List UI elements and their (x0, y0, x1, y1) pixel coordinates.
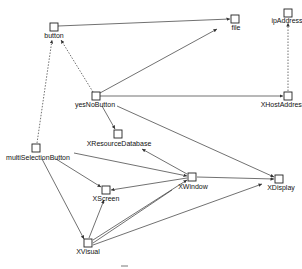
edge-button-to-file (58, 19, 230, 26)
edge-xvisual-to-xscreen (89, 200, 104, 238)
node-label: XResourceDatabase (87, 140, 152, 147)
node-multiselectionbutton[interactable]: multiSelectionButton (6, 144, 70, 161)
node-box[interactable] (114, 130, 122, 138)
node-box[interactable] (102, 186, 110, 194)
edge-yesnobutton-to-file (100, 29, 217, 93)
node-file[interactable]: file (231, 15, 241, 31)
node-label: XDisplay (267, 184, 295, 192)
node-box[interactable] (231, 15, 239, 23)
node-label: file (232, 24, 241, 31)
node-box[interactable] (188, 173, 196, 181)
edge-multiselection-to-xvisual (42, 159, 84, 239)
node-yesnobutton[interactable]: yesNoButton (75, 92, 115, 109)
node-label: yesNoButton (75, 101, 115, 109)
node-box[interactable] (284, 9, 292, 17)
node-box[interactable] (284, 92, 292, 100)
node-ipaddress[interactable]: ipAddress (271, 9, 302, 25)
node-label: XHostAddress (261, 101, 302, 108)
node-xdisplay[interactable]: XDisplay (267, 175, 295, 192)
node-label: ipAddress (271, 17, 302, 25)
node-box[interactable] (275, 175, 283, 183)
node-label: button (44, 32, 64, 39)
node-box[interactable] (32, 144, 40, 152)
edge-xvisual-to-xdisplay (93, 184, 262, 245)
edges (37, 19, 288, 245)
dependency-graph: button file ipAddress yesNoButton XHostA… (0, 0, 302, 269)
node-xhostaddress[interactable]: XHostAddress (261, 92, 302, 108)
node-label: XWindow (178, 183, 209, 190)
node-xresourcedatabase[interactable]: XResourceDatabase (87, 130, 152, 147)
edge-yesnobutton-to-xresourcedatabase (102, 106, 115, 129)
node-xscreen[interactable]: XScreen (93, 186, 120, 202)
node-label: XScreen (93, 195, 120, 202)
node-box[interactable] (84, 239, 92, 247)
edge-multiselection-to-button (37, 40, 52, 143)
node-xvisual[interactable]: XVisual (76, 239, 100, 255)
edge-xwindow-to-xresourcedatabase (142, 149, 187, 174)
edge-yesnobutton-to-button (61, 40, 93, 92)
node-xwindow[interactable]: XWindow (178, 173, 209, 190)
edge-xwindow-to-xscreen (111, 178, 187, 190)
edge-xwindow-to-xdisplay (197, 177, 274, 179)
node-label: XVisual (76, 248, 100, 255)
node-button[interactable]: button (44, 23, 64, 39)
node-box[interactable] (50, 23, 58, 31)
node-label: multiSelectionButton (6, 154, 70, 161)
node-box[interactable] (92, 92, 100, 100)
edge-multiselection-to-xscreen (56, 159, 101, 187)
